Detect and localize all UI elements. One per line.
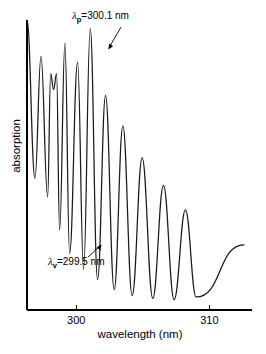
valley-value: 299.5 <box>63 256 88 267</box>
figure: 300310 wavelength (nm) absorption λp=300… <box>0 0 266 354</box>
peak-arrow <box>108 27 121 50</box>
absorption-spectrum-chart: 300310 wavelength (nm) <box>0 0 266 354</box>
peak-unit: nm <box>115 10 129 21</box>
x-axis-ticks <box>76 305 209 310</box>
valley-unit: nm <box>91 256 105 267</box>
valley-annotation: λv=299.5 nm <box>48 255 105 270</box>
peak-value: 300.1 <box>87 10 112 21</box>
y-axis-title: absorption <box>10 106 22 186</box>
peak-annotation: λp=300.1 nm <box>72 9 129 24</box>
x-axis-tick-labels: 300310 <box>67 314 218 326</box>
x-axis-title: wavelength (nm) <box>96 328 182 340</box>
x-tick-label: 300 <box>67 314 85 326</box>
x-tick-label: 310 <box>200 314 218 326</box>
